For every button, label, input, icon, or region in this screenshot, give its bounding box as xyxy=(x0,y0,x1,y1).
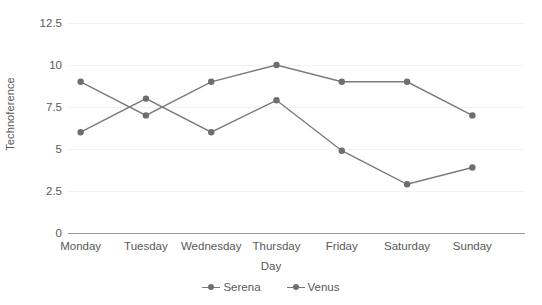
line-chart: Technoference 02.557.51012.5 MondayTuesd… xyxy=(0,0,542,305)
series-line-serena xyxy=(81,65,473,115)
data-point-marker xyxy=(143,112,149,118)
x-axis-tick-label: Friday xyxy=(326,240,358,252)
legend-item-serena[interactable]: Serena xyxy=(202,281,260,293)
chart-legend: SerenaVenus xyxy=(0,281,542,293)
x-axis-title: Day xyxy=(0,260,542,272)
legend-marker-icon xyxy=(202,282,220,292)
data-point-marker xyxy=(77,129,83,135)
x-axis-tick-label: Monday xyxy=(60,240,101,252)
y-axis-tick-label: 5 xyxy=(18,143,62,155)
data-point-marker xyxy=(208,129,214,135)
x-axis-tick-label: Wednesday xyxy=(181,240,242,252)
x-axis-tick-label: Tuesday xyxy=(124,240,168,252)
x-axis-tick-label: Saturday xyxy=(384,240,430,252)
data-point-marker xyxy=(339,147,345,153)
data-point-marker xyxy=(404,181,410,187)
y-axis-tick-label: 0 xyxy=(18,227,62,239)
y-axis-tick-label: 7.5 xyxy=(18,101,62,113)
data-point-marker xyxy=(339,79,345,85)
legend-item-venus[interactable]: Venus xyxy=(287,281,340,293)
data-point-marker xyxy=(208,79,214,85)
y-axis-tick-label: 2.5 xyxy=(18,185,62,197)
data-point-marker xyxy=(143,95,149,101)
y-axis-tick-label: 12.5 xyxy=(18,17,62,29)
legend-marker-icon xyxy=(287,282,305,292)
y-axis-tick-label: 10 xyxy=(18,59,62,71)
data-point-marker xyxy=(77,79,83,85)
data-point-marker xyxy=(469,164,475,170)
x-axis-tick-label: Thursday xyxy=(253,240,301,252)
x-axis-tick-label: Sunday xyxy=(453,240,492,252)
data-point-marker xyxy=(469,112,475,118)
legend-label: Venus xyxy=(308,281,340,293)
data-point-marker xyxy=(273,62,279,68)
legend-label: Serena xyxy=(223,281,260,293)
data-point-marker xyxy=(273,97,279,103)
data-point-marker xyxy=(404,79,410,85)
